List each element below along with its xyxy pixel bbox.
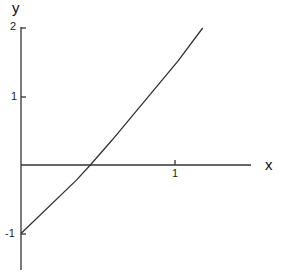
y-tick-label-minus-1: -1 <box>5 227 15 239</box>
y-axis-label: y <box>12 0 20 16</box>
x-axis-label: x <box>265 156 273 173</box>
y-tick-label-2: 2 <box>10 20 16 32</box>
y-tick-label-1: 1 <box>11 90 17 102</box>
chart-plot <box>0 0 286 273</box>
data-line <box>21 28 203 234</box>
x-tick-label-1: 1 <box>172 167 178 179</box>
